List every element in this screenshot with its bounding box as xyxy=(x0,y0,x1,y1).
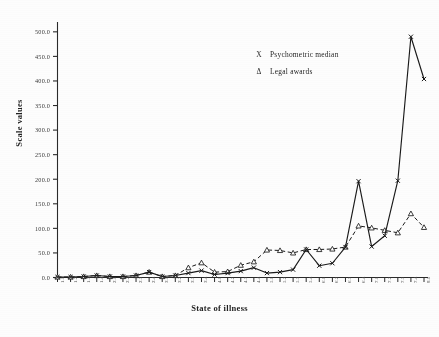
chart-plot-area xyxy=(0,0,439,337)
x-tick-label: 5.1 xyxy=(269,277,274,283)
y-tick-label: 50.0 xyxy=(6,249,50,256)
x-tick-label: 5.4 xyxy=(308,277,313,283)
x-tick-label: 2.1 xyxy=(112,277,117,283)
y-tick-label: 150.0 xyxy=(6,200,50,207)
x-tick-label: 8.1 xyxy=(426,277,431,283)
y-tick-label: 200.0 xyxy=(6,176,50,183)
y-tick-label: 450.0 xyxy=(6,53,50,60)
x-tick-label: 5.3 xyxy=(295,277,300,283)
y-tick-label: 250.0 xyxy=(6,151,50,158)
legend-item-psychometric-median: X Psychometric median xyxy=(248,46,339,63)
x-tick-label: 3.4 xyxy=(203,277,208,283)
y-tick-label: 0.0 xyxy=(6,274,50,281)
x-tick-label: 6.3 xyxy=(347,277,352,283)
x-tick-label: 2.2 xyxy=(125,277,130,283)
x-tick-label: 6.2 xyxy=(334,277,339,283)
chart-legend: X Psychometric median Δ Legal awards xyxy=(248,46,339,80)
x-tick-label: 1.3 xyxy=(86,277,91,283)
x-tick-label: 2.3 xyxy=(138,277,143,283)
y-tick-label: 100.0 xyxy=(6,225,50,232)
x-tick-label: 4.4 xyxy=(256,277,261,283)
x-tick-label: 1.2 xyxy=(73,277,78,283)
x-tick-label: 4.3 xyxy=(243,277,248,283)
x-tick-label: 7.1 xyxy=(374,277,379,283)
y-tick-label: 400.0 xyxy=(6,77,50,84)
x-axis-title: State of illness xyxy=(0,303,439,313)
x-tick-label: 6.4 xyxy=(361,277,366,283)
x-tick-label: 6.1 xyxy=(321,277,326,283)
y-tick-label: 500.0 xyxy=(6,28,50,35)
x-tick-label: 3.1 xyxy=(164,277,169,283)
x-tick-label: 2.4 xyxy=(151,277,156,283)
x-tick-label: 7.4 xyxy=(413,277,418,283)
x-tick-label: 7.3 xyxy=(400,277,405,283)
y-tick-label: 300.0 xyxy=(6,126,50,133)
x-marker-icon: X xyxy=(248,50,270,59)
legend-item-legal-awards: Δ Legal awards xyxy=(248,63,339,80)
x-tick-label: 4.1 xyxy=(217,277,222,283)
legend-label: Legal awards xyxy=(270,67,313,76)
x-tick-label: 3.3 xyxy=(190,277,195,283)
legend-label: Psychometric median xyxy=(270,50,339,59)
figure-container: Scale values State of illness 0.050.0100… xyxy=(0,0,439,337)
x-tick-label: 5.2 xyxy=(282,277,287,283)
x-tick-label: 1.4 xyxy=(99,277,104,283)
y-tick-label: 350.0 xyxy=(6,102,50,109)
triangle-marker-icon: Δ xyxy=(248,67,270,76)
x-tick-label: 4.2 xyxy=(230,277,235,283)
x-tick-label: 7.2 xyxy=(387,277,392,283)
x-tick-label: 3.2 xyxy=(177,277,182,283)
x-tick-label: 1.1 xyxy=(60,277,65,283)
